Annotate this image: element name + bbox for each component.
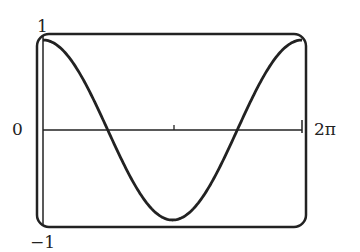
cosine-plot bbox=[0, 0, 360, 252]
x-end-label: 2π bbox=[314, 119, 336, 139]
x-origin-label: 0 bbox=[12, 119, 23, 139]
y-max-label: 1 bbox=[37, 16, 48, 36]
y-min-label: −1 bbox=[30, 232, 55, 252]
